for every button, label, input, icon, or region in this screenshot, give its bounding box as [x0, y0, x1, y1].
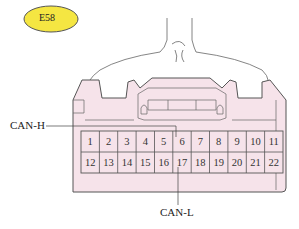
connector-id-label: E58	[39, 12, 55, 23]
pin-13: 13	[103, 157, 114, 168]
pin-12: 12	[85, 157, 96, 168]
pin-1: 1	[88, 136, 93, 147]
pin-18: 18	[195, 157, 206, 168]
pin-grid: 1234567891011 1213141516171819202122	[81, 131, 283, 173]
pin-5: 5	[161, 136, 166, 147]
pin-6: 6	[179, 136, 184, 147]
pin-9: 9	[234, 136, 239, 147]
pin-19: 19	[213, 157, 224, 168]
pin-8: 8	[216, 136, 221, 147]
can-l-label: CAN-L	[160, 206, 194, 218]
pin-22: 22	[269, 157, 280, 168]
connector-diagram: 1234567891011 1213141516171819202122	[0, 0, 299, 229]
pin-14: 14	[122, 157, 133, 168]
pin-20: 20	[232, 157, 243, 168]
can-h-label: CAN-H	[10, 119, 45, 131]
pin-10: 10	[250, 136, 261, 147]
pin-21: 21	[250, 157, 261, 168]
pin-17: 17	[177, 157, 188, 168]
pin-15: 15	[140, 157, 151, 168]
pin-16: 16	[158, 157, 169, 168]
pin-2: 2	[106, 136, 111, 147]
pin-11: 11	[269, 136, 279, 147]
pin-3: 3	[124, 136, 129, 147]
pin-4: 4	[143, 136, 149, 147]
wire-harness	[90, 18, 268, 80]
pin-7: 7	[198, 136, 203, 147]
